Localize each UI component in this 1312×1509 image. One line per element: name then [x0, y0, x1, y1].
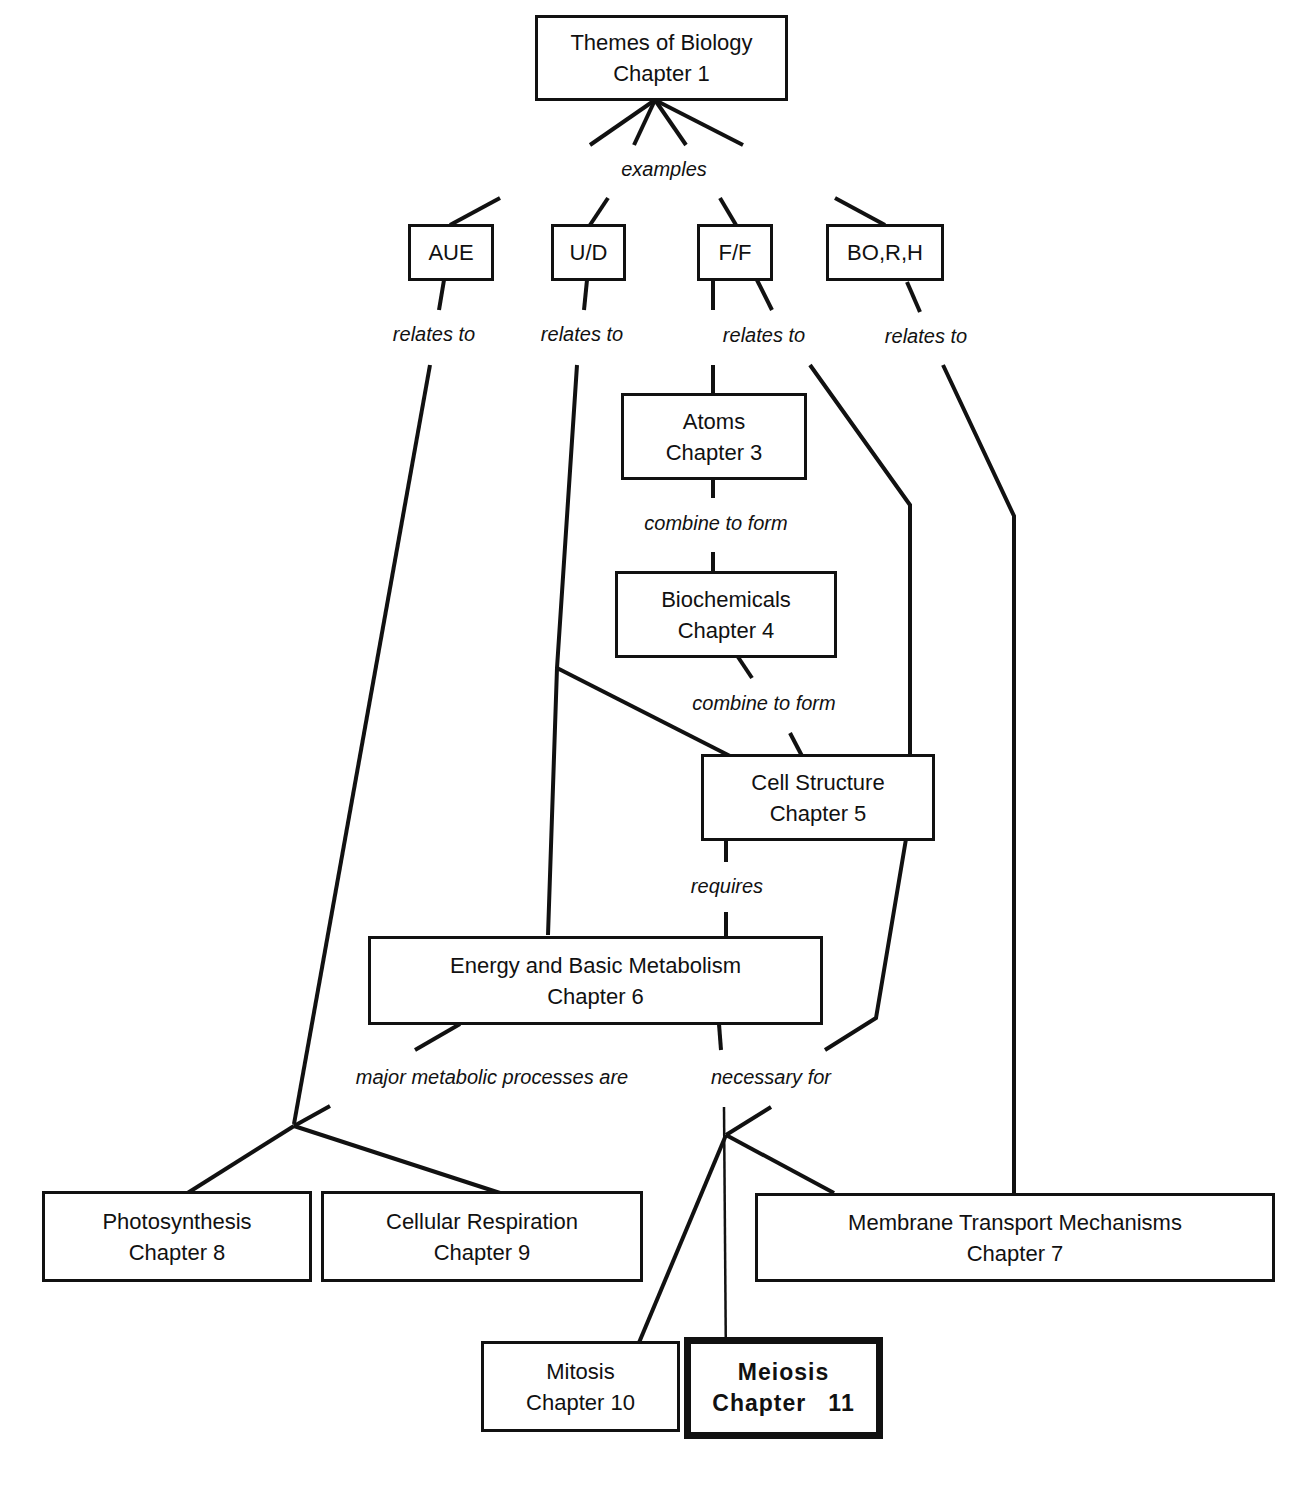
node-title: Energy and Basic Metabolism	[450, 950, 741, 981]
node-photosynthesis: Photosynthesis Chapter 8	[42, 1191, 312, 1282]
node-atoms: Atoms Chapter 3	[621, 393, 807, 480]
node-aue: AUE	[408, 224, 494, 281]
node-subtitle: Chapter 6	[547, 981, 644, 1012]
node-title: Meiosis	[738, 1357, 829, 1388]
node-title: AUE	[428, 237, 473, 268]
connector-lines	[0, 0, 1312, 1509]
node-borh: BO,R,H	[826, 224, 944, 281]
node-subtitle: Chapter 3	[666, 437, 763, 468]
label-relates-ff: relates to	[723, 324, 805, 347]
node-mitosis: Mitosis Chapter 10	[481, 1341, 680, 1432]
node-subtitle: Chapter 7	[967, 1238, 1064, 1269]
node-title: Themes of Biology	[570, 27, 752, 58]
label-relates-aue: relates to	[393, 323, 475, 346]
node-membrane-transport: Membrane Transport Mechanisms Chapter 7	[755, 1193, 1275, 1282]
node-title: Cell Structure	[751, 767, 884, 798]
node-title: BO,R,H	[847, 237, 923, 268]
node-themes-of-biology: Themes of Biology Chapter 1	[535, 15, 788, 101]
node-title: Biochemicals	[661, 584, 791, 615]
node-subtitle: Chapter 1	[613, 58, 710, 89]
label-relates-borh: relates to	[885, 325, 967, 348]
node-subtitle: Chapter 4	[678, 615, 775, 646]
node-subtitle: Chapter 9	[434, 1237, 531, 1268]
node-ud: U/D	[551, 224, 626, 281]
node-ff: F/F	[697, 224, 773, 281]
node-subtitle: Chapter 8	[129, 1237, 226, 1268]
node-meiosis: Meiosis Chapter 11	[684, 1337, 883, 1439]
node-subtitle: Chapter 11	[712, 1388, 854, 1419]
node-title: Mitosis	[546, 1356, 614, 1387]
label-combine-2: combine to form	[692, 692, 835, 715]
label-major-processes: major metabolic processes are	[356, 1066, 628, 1089]
node-subtitle: Chapter 5	[770, 798, 867, 829]
node-energy-metabolism: Energy and Basic Metabolism Chapter 6	[368, 936, 823, 1025]
node-title: Membrane Transport Mechanisms	[848, 1207, 1182, 1238]
label-examples: examples	[621, 158, 707, 181]
label-combine-1: combine to form	[644, 512, 787, 535]
label-relates-ud: relates to	[541, 323, 623, 346]
node-title: Atoms	[683, 406, 745, 437]
label-requires: requires	[691, 875, 763, 898]
node-cellular-respiration: Cellular Respiration Chapter 9	[321, 1191, 643, 1282]
node-title: U/D	[570, 237, 608, 268]
node-biochemicals: Biochemicals Chapter 4	[615, 571, 837, 658]
node-subtitle: Chapter 10	[526, 1387, 635, 1418]
node-title: Photosynthesis	[102, 1206, 251, 1237]
node-title: F/F	[719, 237, 752, 268]
node-cell-structure: Cell Structure Chapter 5	[701, 754, 935, 841]
node-title: Cellular Respiration	[386, 1206, 578, 1237]
label-necessary-for: necessary for	[711, 1066, 831, 1089]
